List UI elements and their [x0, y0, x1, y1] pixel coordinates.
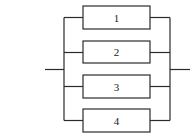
branch-3: 3: [64, 75, 170, 98]
branch-1: 1: [64, 6, 170, 29]
component-label-3: 3: [114, 81, 120, 93]
component-label-4: 4: [114, 115, 120, 127]
component-label-1: 1: [114, 12, 120, 24]
component-label-2: 2: [114, 46, 120, 58]
parallel-system-diagram: 1 2 3 4: [0, 0, 194, 140]
branch-2: 2: [64, 41, 170, 63]
branch-4: 4: [64, 109, 170, 132]
